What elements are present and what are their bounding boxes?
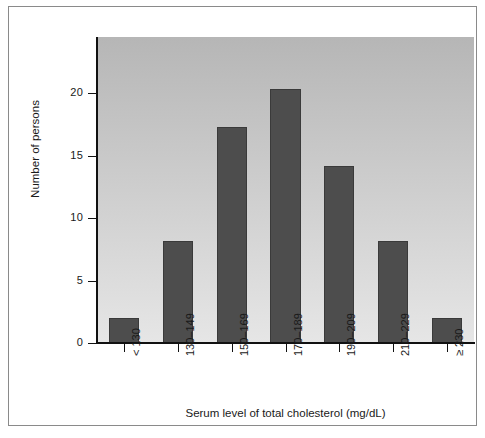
- x-axis-tick: [339, 344, 340, 352]
- x-axis-tick: [447, 344, 448, 352]
- y-axis-title: Number of persons: [29, 79, 41, 219]
- bar: [270, 89, 300, 343]
- y-axis-tick: [88, 343, 96, 344]
- x-axis-title: Serum level of total cholesterol (mg/dL): [97, 407, 474, 419]
- bar: [217, 127, 247, 343]
- x-axis-tick: [178, 344, 179, 352]
- y-axis-ticks-group: 05101520: [9, 7, 97, 438]
- y-axis-tick-label: 15: [49, 150, 83, 161]
- y-axis-tick: [88, 281, 96, 282]
- x-axis-tick: [232, 344, 233, 352]
- y-axis-tick: [88, 218, 96, 219]
- y-axis-tick-label: 20: [49, 87, 83, 98]
- x-axis-tick: [286, 344, 287, 352]
- figure-canvas: 05101520 < 130130–149150–169170–189190–2…: [0, 0, 485, 438]
- y-axis-tick: [88, 93, 96, 94]
- x-axis-tick: [124, 344, 125, 352]
- y-axis-tick-label: 10: [49, 212, 83, 223]
- bars-layer: [97, 37, 474, 343]
- y-axis-tick: [88, 156, 96, 157]
- figure-frame-border: 05101520 < 130130–149150–169170–189190–2…: [8, 6, 477, 426]
- y-axis-tick-label: 5: [49, 275, 83, 286]
- x-axis-tick: [393, 344, 394, 352]
- y-axis-tick-label: 0: [49, 337, 83, 348]
